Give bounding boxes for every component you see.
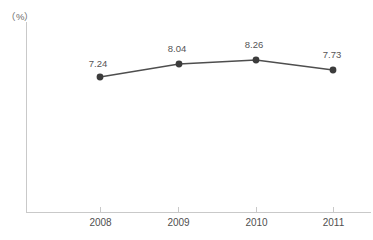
value-label-2011: 7.73 xyxy=(323,49,342,60)
chart-plot-area: 7.24 8.04 8.26 7.73 2008 2009 2010 2011 xyxy=(0,0,373,240)
line-chart: （%） 7.24 8.04 8.26 7.73 2008 2009 2010 2… xyxy=(0,0,373,240)
data-point-2009[interactable] xyxy=(176,61,183,68)
value-label-2008: 7.24 xyxy=(89,58,108,69)
x-axis-label-2009: 2009 xyxy=(167,217,190,228)
value-label-2010: 8.26 xyxy=(245,39,264,50)
data-point-2011[interactable] xyxy=(330,67,337,74)
footnote-text xyxy=(0,235,373,240)
x-axis-label-2010: 2010 xyxy=(245,217,268,228)
data-point-2010[interactable] xyxy=(253,57,260,64)
series-line-path xyxy=(100,60,333,77)
value-label-2009: 8.04 xyxy=(168,43,187,54)
x-axis-label-2008: 2008 xyxy=(89,217,112,228)
x-axis-label-2011: 2011 xyxy=(323,217,345,228)
data-point-2008[interactable] xyxy=(97,74,104,81)
